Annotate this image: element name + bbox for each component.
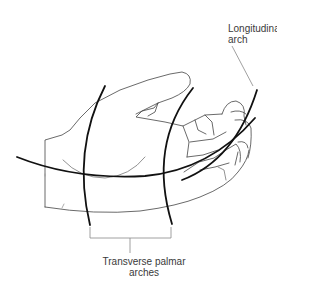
transverse-arches-label: Transverse palmar arches [84, 256, 204, 278]
transverse-label-line1: Transverse palmar [84, 256, 204, 267]
longitudinal-leader [232, 46, 253, 86]
longitudinal-label-line2: arch [228, 34, 277, 45]
longitudinal-label-line1: Longitudinal [228, 23, 277, 34]
longitudinal-arch-label: Longitudinal arch [228, 23, 277, 45]
transverse-arch-proximal [84, 86, 105, 225]
hand-outline [45, 72, 251, 212]
transverse-bracket [90, 227, 171, 238]
longitudinal-arch-line [182, 90, 257, 180]
transverse-label-line2: arches [84, 267, 204, 278]
